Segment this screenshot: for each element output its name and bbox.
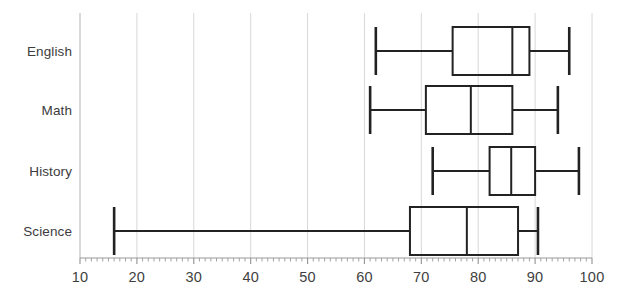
box-plot-chart: EnglishMathHistoryScience 10203040506070… <box>0 0 622 301</box>
gridlines <box>137 13 592 258</box>
category-label-math: Math <box>42 103 72 118</box>
box-plot-history <box>433 147 579 195</box>
plot-area <box>0 0 622 301</box>
category-axis-labels: EnglishMathHistoryScience <box>0 0 72 301</box>
category-label-english: English <box>27 44 72 59</box>
x-axis-ticks <box>80 258 592 264</box>
box-iqr <box>453 27 530 75</box>
box-iqr <box>410 207 518 255</box>
box-plot-english <box>376 27 569 75</box>
box-plot-science <box>114 207 538 255</box>
box-iqr <box>490 147 536 195</box>
category-label-history: History <box>29 164 72 179</box>
box-plot-math <box>370 86 558 134</box>
category-label-science: Science <box>23 224 72 239</box>
box-iqr <box>426 86 512 134</box>
